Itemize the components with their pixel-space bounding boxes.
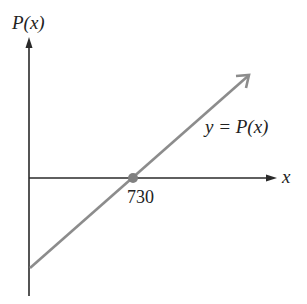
y-axis-label: P(x) <box>12 12 45 34</box>
x-intercept-point <box>128 173 138 183</box>
y-axis-arrow-icon <box>26 37 33 48</box>
x-intercept-label: 730 <box>127 187 154 208</box>
x-axis-label: x <box>282 166 290 188</box>
graph-line <box>30 76 248 268</box>
line-equation-label: y = P(x) <box>205 116 268 138</box>
x-axis-arrow-icon <box>266 175 277 182</box>
graph-canvas <box>0 0 307 304</box>
